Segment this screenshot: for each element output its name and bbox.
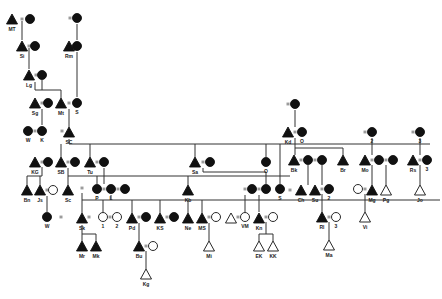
male-triangle-icon [317, 212, 328, 222]
open-circle-icon [99, 213, 108, 222]
female-circle-icon [73, 42, 82, 51]
female-circle-icon [31, 42, 40, 51]
person-MS: MS [197, 213, 208, 231]
equals-icon [68, 102, 71, 104]
person-L: L [107, 185, 116, 202]
person-label: Mr [79, 253, 85, 259]
equals-icon [28, 45, 31, 47]
person-Siw [31, 42, 40, 51]
person-label: Rs [410, 167, 417, 173]
female-circle-icon [170, 213, 179, 222]
female-circle-icon [298, 128, 307, 137]
person-Pd: Pd [127, 213, 138, 231]
person-label: Pd [129, 225, 135, 231]
person-label: 3 [426, 166, 429, 172]
person-Br: Br [338, 155, 349, 173]
equals-icon [364, 188, 367, 190]
open-circle-icon [332, 213, 341, 222]
equals-icon [265, 216, 268, 218]
equals-icon [60, 216, 63, 218]
female-circle-icon [206, 158, 215, 167]
male-triangle-icon [197, 213, 208, 223]
person-Tuw [100, 158, 109, 167]
person-label: Mt [58, 110, 64, 116]
female-circle-icon [100, 158, 109, 167]
male-triangle-icon [30, 98, 41, 108]
person-K: K [38, 127, 47, 144]
person-Sk: Sk [77, 213, 88, 231]
person-label: Mk [93, 253, 100, 259]
person-Kdm [291, 100, 300, 109]
person-label: S [75, 109, 79, 115]
person-label: Ne [185, 225, 192, 231]
equals-icon [96, 161, 99, 163]
equals-icon [314, 159, 317, 161]
person-label: 3 [419, 138, 422, 144]
open-circle-icon [269, 213, 278, 222]
person-MT: MT [7, 14, 18, 32]
person-label: Ch [298, 197, 305, 203]
equals-icon [103, 188, 106, 190]
open-circle-icon [241, 213, 250, 222]
equals-icon [88, 216, 91, 218]
person-label: KG [31, 169, 39, 175]
open-circle-icon [212, 213, 221, 222]
open-triangle-icon [381, 185, 392, 195]
person-Bn: Bn [22, 185, 33, 203]
person-label: Bk [291, 167, 298, 173]
male-triangle-icon [254, 213, 265, 223]
person-label: Rm [65, 53, 74, 59]
person-Rmw [73, 42, 82, 51]
male-triangle-icon [7, 14, 18, 24]
person-i1: 1 [99, 213, 108, 230]
person-EK: EK [254, 241, 265, 259]
female-circle-icon [142, 213, 151, 222]
male-triangle-icon [127, 213, 138, 223]
person-label: Js [37, 197, 43, 203]
male-triangle-icon [24, 70, 35, 80]
equals-icon [166, 216, 169, 218]
open-circle-icon [113, 213, 122, 222]
female-circle-icon [26, 15, 35, 24]
person-Rmm [73, 14, 82, 23]
person-label: Lg [26, 82, 32, 88]
male-triangle-icon [56, 157, 67, 167]
female-circle-icon [44, 158, 53, 167]
female-circle-icon [73, 99, 82, 108]
person-label: Bu [136, 253, 143, 259]
male-triangle-icon [289, 155, 300, 165]
person-Mgw [354, 185, 363, 194]
male-triangle-icon [183, 213, 194, 223]
equals-icon [21, 18, 24, 20]
person-Kn: Kn [254, 213, 265, 231]
person-S: S [73, 99, 82, 116]
female-circle-icon [318, 156, 327, 165]
equals-icon [145, 245, 148, 247]
open-triangle-icon [324, 240, 335, 250]
person-label: VM [241, 223, 249, 229]
person-VM: VM [241, 213, 250, 230]
person-P: P [93, 185, 102, 202]
female-circle-icon [304, 156, 313, 165]
person-Sg: Sg [30, 98, 41, 116]
male-triangle-icon [30, 157, 41, 167]
equals-icon [294, 131, 297, 133]
equals-icon [328, 216, 331, 218]
female-circle-icon [368, 128, 377, 137]
equals-icon [244, 188, 247, 190]
person-Vi: Vi [360, 212, 371, 230]
person-label: Sk [79, 225, 85, 231]
equals-icon [109, 216, 112, 218]
equals-icon [202, 161, 205, 163]
person-label: 2 [371, 138, 374, 144]
male-triangle-icon [77, 213, 88, 223]
person-Kd: Kd [283, 127, 294, 145]
person-label: SC [66, 139, 73, 145]
male-triangle-icon [91, 241, 102, 251]
equals-icon [69, 17, 72, 19]
person-label: W [45, 223, 50, 229]
person-label: Si [20, 53, 25, 59]
equals-icon [208, 216, 211, 218]
person-Buw [149, 242, 158, 251]
person-label: Kd [285, 139, 292, 145]
